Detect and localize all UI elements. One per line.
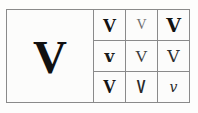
variant-grid: V V V v V V <box>94 10 189 102</box>
glyph-r3c1: V <box>103 78 116 96</box>
grid-cell-r1c2: V <box>126 10 158 40</box>
specimen-letter: V <box>33 34 67 81</box>
glyph-variants-table: V V V V v V <box>6 9 190 103</box>
specimen-panel: V <box>7 10 94 102</box>
grid-cell-r1c1: V <box>94 10 126 40</box>
table-row: V V 𝑣 <box>94 72 189 102</box>
grid-cell-r1c3: V <box>158 10 189 40</box>
glyph-r3c3: 𝑣 <box>170 81 178 95</box>
grid-cell-r2c2: V <box>126 41 158 71</box>
glyph-r1c2: V <box>136 18 146 32</box>
glyph-r2c2: V <box>135 48 147 65</box>
figure-root: V V V V v V <box>0 0 198 113</box>
grid-cell-r3c1: V <box>94 72 126 102</box>
glyph-r2c3: V <box>167 48 179 65</box>
grid-cell-r2c3: V <box>158 41 189 71</box>
glyph-r2c1: v <box>105 48 115 65</box>
glyph-r1c3: V <box>166 16 181 35</box>
glyph-r1c1: V <box>103 16 117 35</box>
table-row: v V V <box>94 41 189 72</box>
glyph-r3c2: V <box>137 78 146 96</box>
grid-cell-r3c2: V <box>126 72 158 102</box>
grid-cell-r3c3: 𝑣 <box>158 72 189 102</box>
grid-cell-r2c1: v <box>94 41 126 71</box>
table-row: V V V <box>94 10 189 41</box>
